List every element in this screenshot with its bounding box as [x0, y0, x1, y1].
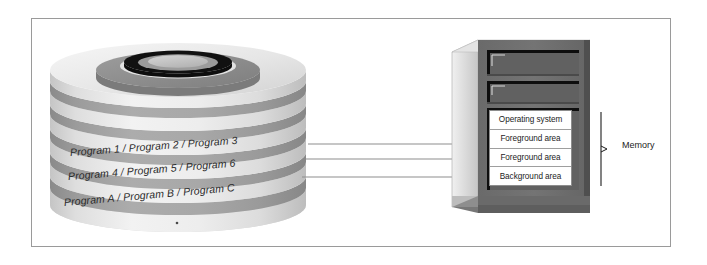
- memory-row-foreground-area-2: Foreground area: [490, 149, 571, 168]
- cabinet-slot-2: [487, 81, 579, 104]
- diagram-canvas: [0, 0, 707, 265]
- memory-bracket-label: Memory: [622, 140, 655, 150]
- memory-row-background-area: Background area: [490, 167, 571, 185]
- memory-row-foreground-area-1: Foreground area: [490, 130, 571, 149]
- memory-bracket: [601, 112, 607, 186]
- memory-partition-table: Operating system Foreground area Foregro…: [489, 110, 572, 186]
- figure-multiprogramming-diagram: Program 1 / Program 2 / Program 3 Progra…: [0, 0, 707, 265]
- memory-row-operating-system: Operating system: [490, 111, 571, 130]
- spindle-dot: [176, 222, 179, 225]
- cabinet-slot-1: [487, 50, 579, 76]
- disk-platter-rings: [96, 51, 260, 96]
